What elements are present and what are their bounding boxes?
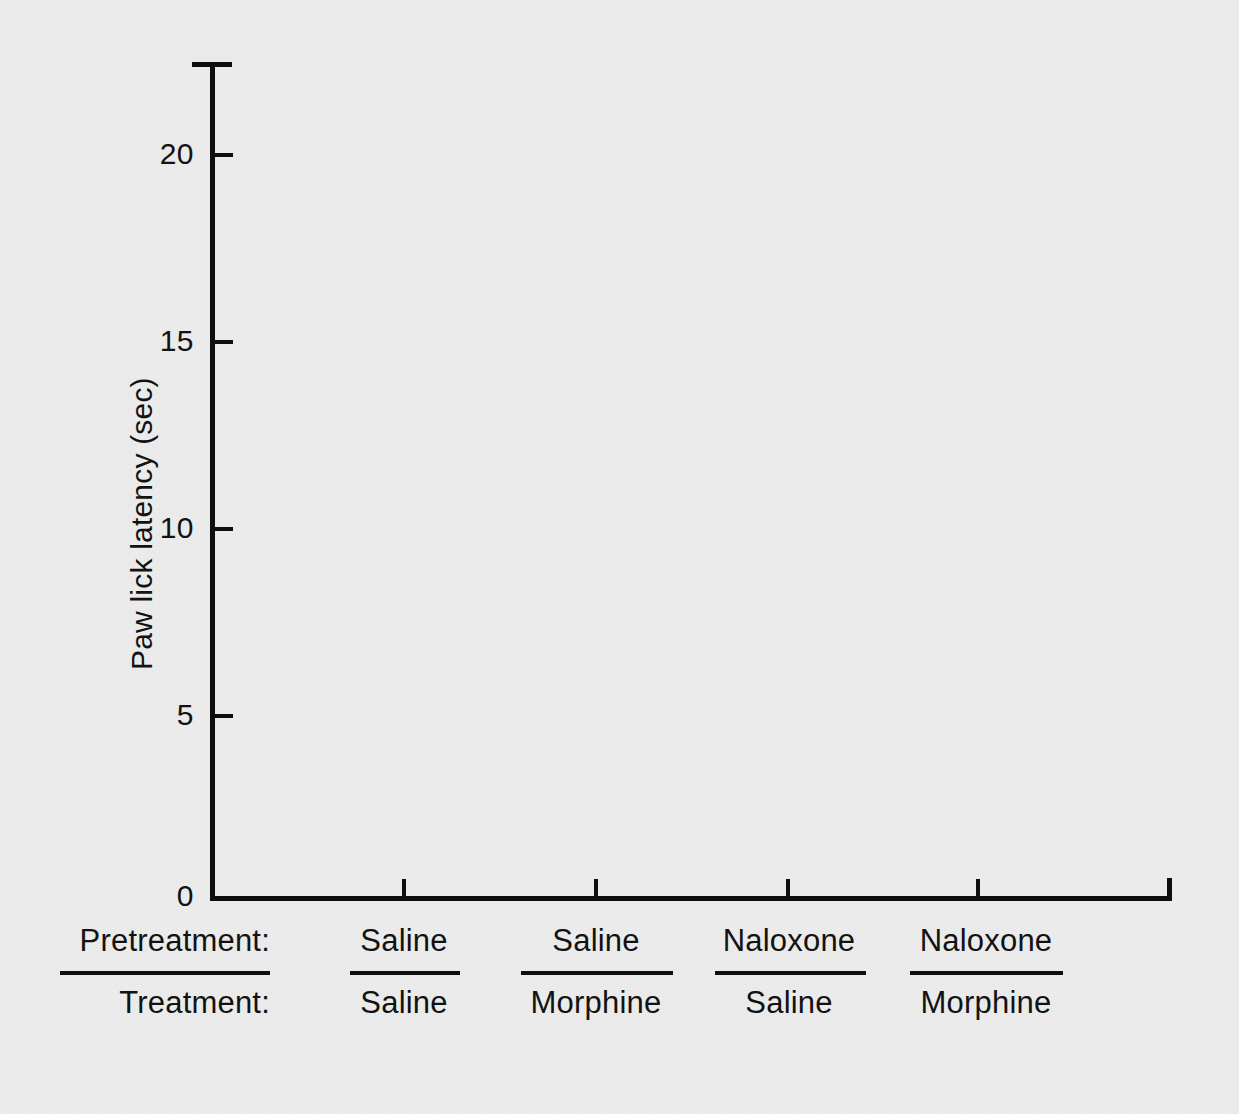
rule-column-4 bbox=[910, 971, 1063, 975]
x-axis-line bbox=[210, 896, 1172, 901]
condition-row-treatment: Treatment: Saline Morphine Saline Morphi… bbox=[0, 980, 1239, 1028]
rule-header-column bbox=[60, 971, 270, 975]
condition-cell-pretreatment-1: Saline bbox=[294, 918, 514, 964]
x-axis-right-cap bbox=[1167, 878, 1172, 901]
y-tick-label-20: 20 bbox=[104, 139, 194, 169]
condition-table: Pretreatment: Saline Saline Naloxone Nal… bbox=[0, 918, 1239, 1048]
condition-row-pretreatment: Pretreatment: Saline Saline Naloxone Nal… bbox=[0, 918, 1239, 966]
condition-cell-treatment-1: Saline bbox=[294, 980, 514, 1026]
condition-row-header-treatment: Treatment: bbox=[8, 980, 270, 1026]
condition-cell-pretreatment-4: Naloxone bbox=[876, 918, 1096, 964]
x-tick-mark-4 bbox=[976, 879, 980, 897]
x-tick-mark-1 bbox=[402, 879, 406, 897]
y-tick-mark-15 bbox=[215, 340, 233, 344]
condition-row-header-pretreatment: Pretreatment: bbox=[8, 918, 270, 964]
plot-area bbox=[210, 62, 1170, 898]
rule-column-1 bbox=[350, 971, 460, 975]
y-tick-mark-5 bbox=[215, 714, 233, 718]
y-axis-line bbox=[210, 62, 215, 901]
x-tick-mark-2 bbox=[594, 879, 598, 897]
y-tick-label-5: 5 bbox=[104, 700, 194, 730]
condition-cell-treatment-4: Morphine bbox=[876, 980, 1096, 1026]
rule-column-3 bbox=[715, 971, 866, 975]
figure-canvas: 20 15 10 5 0 Paw lick latency (sec) Pret… bbox=[0, 0, 1239, 1114]
y-tick-mark-10 bbox=[215, 527, 233, 531]
rule-column-2 bbox=[521, 971, 673, 975]
condition-cell-pretreatment-3: Naloxone bbox=[679, 918, 899, 964]
y-tick-mark-20 bbox=[215, 153, 233, 157]
x-tick-mark-3 bbox=[786, 879, 790, 897]
y-axis-title: Paw lick latency (sec) bbox=[125, 170, 159, 670]
y-tick-label-0: 0 bbox=[104, 881, 194, 911]
condition-cell-treatment-2: Morphine bbox=[486, 980, 706, 1026]
condition-cell-pretreatment-2: Saline bbox=[486, 918, 706, 964]
y-axis-top-cap bbox=[192, 62, 232, 67]
condition-cell-treatment-3: Saline bbox=[679, 980, 899, 1026]
